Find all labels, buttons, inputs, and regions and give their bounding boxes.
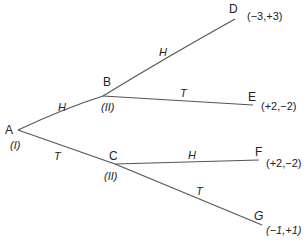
node-b-player: (II): [101, 101, 114, 113]
edge-c-f: [115, 160, 259, 164]
node-c-label: C: [109, 150, 118, 162]
node-g-payoff: (−1,+1): [266, 224, 301, 236]
game-tree-edges: [0, 0, 305, 242]
edge-a-c: [18, 130, 115, 164]
node-a-player: (I): [10, 139, 20, 151]
node-e-payoff: (+2,−2): [261, 100, 296, 112]
node-g-label: G: [254, 210, 263, 222]
edge-b-d: [103, 19, 235, 96]
edge-a-b-label: H: [58, 101, 66, 113]
edge-c-g: [115, 164, 262, 225]
edge-c-f-label: H: [188, 149, 196, 161]
edge-b-e: [103, 96, 253, 105]
node-b-label: B: [103, 76, 111, 88]
node-f-payoff: (+2,−2): [266, 157, 301, 169]
node-d-payoff: (−3,+3): [247, 10, 282, 22]
edge-a-c-label: T: [54, 150, 61, 162]
node-f-label: F: [255, 146, 262, 158]
edge-c-g-label: T: [196, 185, 203, 197]
edge-b-d-label: H: [159, 46, 167, 58]
node-a-label: A: [5, 124, 13, 136]
node-e-label: E: [248, 91, 256, 103]
node-d-label: D: [229, 3, 238, 15]
node-c-player: (II): [104, 170, 117, 182]
edge-b-e-label: T: [180, 87, 187, 99]
